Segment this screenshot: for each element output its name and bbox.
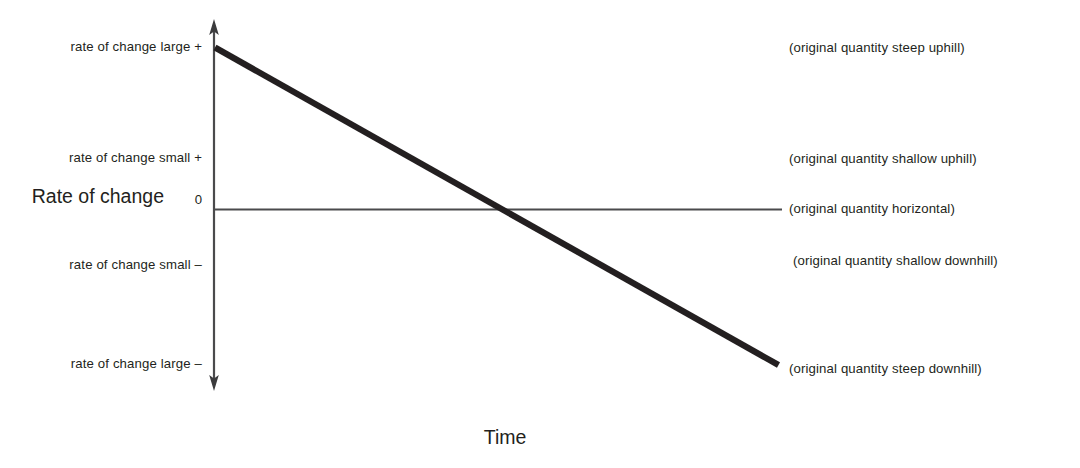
annotation-shallow-uphill: (original quantity shallow uphill) bbox=[789, 152, 977, 165]
annotation-shallow-downhill: (original quantity shallow downhill) bbox=[793, 254, 998, 267]
y-label-small-positive: rate of change small + bbox=[69, 151, 202, 164]
x-axis-title: Time bbox=[484, 428, 527, 448]
y-axis-zero-tick-label: 0 bbox=[168, 193, 202, 206]
y-label-large-positive: rate of change large + bbox=[70, 40, 202, 53]
y-axis-title: Rate of change bbox=[32, 187, 164, 207]
rate-of-change-trend-line bbox=[215, 48, 779, 366]
rate-of-change-diagram: rate of change large + rate of change sm… bbox=[0, 0, 1080, 468]
annotation-horizontal: (original quantity horizontal) bbox=[789, 202, 955, 215]
y-label-small-negative: rate of change small – bbox=[69, 258, 202, 271]
y-label-large-negative: rate of change large – bbox=[71, 357, 202, 370]
annotation-steep-uphill: (original quantity steep uphill) bbox=[789, 41, 965, 54]
annotation-steep-downhill: (original quantity steep downhill) bbox=[789, 362, 982, 375]
plot-area bbox=[0, 0, 1080, 468]
